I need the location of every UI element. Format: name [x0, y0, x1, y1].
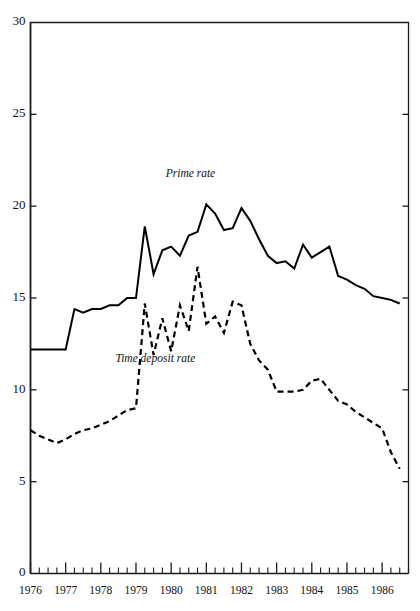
series-line-time-deposit-rate	[31, 267, 400, 469]
x-tick-label-1983: 1983	[265, 584, 288, 596]
x-tick-label-1984: 1984	[300, 584, 323, 596]
data-series-layer	[31, 204, 400, 468]
y-tick-label-0: 0	[19, 564, 26, 579]
x-axis-ticks	[31, 563, 409, 574]
y-axis-tick-labels: 051015202530	[13, 13, 26, 579]
series-line-prime-rate	[31, 204, 400, 349]
x-tick-label-1986: 1986	[371, 584, 394, 596]
x-tick-label-1979: 1979	[124, 584, 147, 596]
y-tick-label-5: 5	[19, 473, 26, 488]
plot-frame	[31, 23, 409, 574]
x-tick-label-1980: 1980	[160, 584, 183, 596]
y-tick-label-25: 25	[13, 105, 26, 120]
y-tick-label-15: 15	[13, 289, 26, 304]
y-axis-ticks	[31, 114, 409, 481]
prime-rate-label: Prime rate	[165, 167, 216, 179]
x-tick-label-1981: 1981	[195, 584, 218, 596]
x-tick-label-1982: 1982	[230, 584, 253, 596]
y-tick-label-30: 30	[13, 13, 26, 28]
time-deposit-rate-label: Time deposit rate	[115, 352, 195, 365]
x-axis-tick-labels: 1976197719781979198019811982198319841985…	[19, 584, 394, 596]
chart-svg: 051015202530 197619771978197919801981198…	[0, 0, 420, 611]
x-tick-label-1985: 1985	[335, 584, 358, 596]
plot-border	[31, 23, 409, 574]
x-tick-label-1978: 1978	[89, 584, 112, 596]
rate-comparison-chart: 051015202530 197619771978197919801981198…	[0, 0, 420, 611]
series-annotations-layer: Prime rateTime deposit rate	[115, 167, 215, 366]
x-tick-label-1977: 1977	[54, 584, 77, 596]
y-tick-label-10: 10	[13, 381, 26, 396]
x-tick-label-1976: 1976	[19, 584, 42, 596]
y-tick-label-20: 20	[13, 197, 26, 212]
